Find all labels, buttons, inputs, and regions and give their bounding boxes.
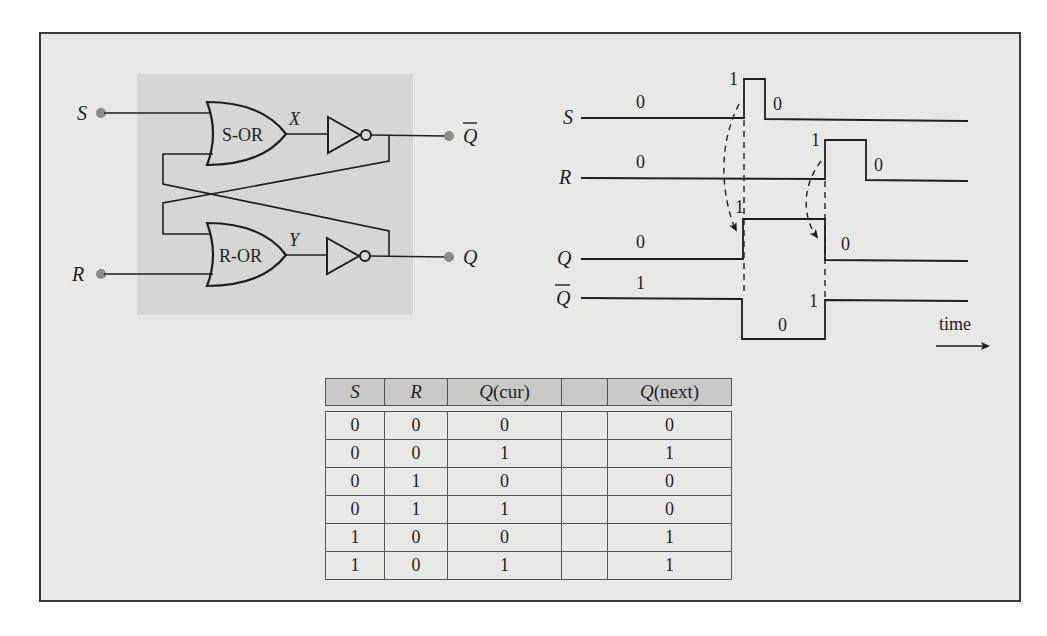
waveform-qbar bbox=[581, 298, 968, 339]
header-q-next-symbol: Q bbox=[640, 381, 654, 403]
table-row: 1 0 1 1 bbox=[326, 552, 731, 580]
header-q-cur-suffix: (cur) bbox=[493, 381, 530, 403]
inverter-bottom-bubble bbox=[360, 251, 370, 261]
cell-q-cur: 0 bbox=[448, 524, 562, 551]
cell-blank bbox=[562, 440, 608, 467]
cell-r: 0 bbox=[385, 412, 448, 439]
output-terminal-qbar[interactable] bbox=[444, 131, 454, 141]
table-row: 0 1 0 0 bbox=[326, 468, 731, 496]
header-q-next-suffix: (next) bbox=[654, 381, 699, 403]
inverter-top-bubble bbox=[361, 130, 371, 140]
output-label-qbar: Q bbox=[463, 125, 478, 147]
cell-r: 1 bbox=[385, 468, 448, 495]
time-axis-label: time bbox=[939, 314, 971, 334]
waveform-r-after: 0 bbox=[874, 155, 883, 175]
waveform-qbar-after: 1 bbox=[809, 291, 818, 311]
timing-label-q: Q bbox=[557, 247, 572, 269]
header-blank bbox=[562, 379, 608, 405]
gate-label-s-or: S-OR bbox=[222, 125, 263, 145]
circuit-panel bbox=[137, 74, 413, 315]
cell-s: 0 bbox=[326, 412, 385, 439]
causality-arrow-reset bbox=[806, 161, 821, 237]
cell-blank bbox=[562, 552, 608, 579]
table-row: 0 1 1 0 bbox=[326, 496, 731, 524]
header-r: R bbox=[385, 379, 448, 405]
circuit-schematic: S S-OR X Q R-OR R Y Q bbox=[71, 74, 478, 315]
waveform-qbar-before: 1 bbox=[636, 273, 645, 293]
timing-diagram: S 0 1 0 R 0 1 0 Q 0 1 0 Q 1 0 1 time bbox=[555, 69, 988, 346]
cell-s: 0 bbox=[326, 440, 385, 467]
cell-blank bbox=[562, 412, 608, 439]
timing-label-r: R bbox=[558, 166, 571, 188]
cell-q-cur: 1 bbox=[448, 440, 562, 467]
node-label-x: X bbox=[288, 109, 301, 129]
cell-q-next: 1 bbox=[608, 524, 731, 551]
truth-table-header: S R Q(cur) Q(next) bbox=[325, 378, 732, 406]
cell-q-cur: 0 bbox=[448, 412, 562, 439]
output-label-q: Q bbox=[463, 246, 478, 268]
cell-blank bbox=[562, 524, 608, 551]
waveform-r-before: 0 bbox=[636, 152, 645, 172]
cell-r: 0 bbox=[385, 552, 448, 579]
waveform-s-before: 0 bbox=[636, 92, 645, 112]
cell-s: 1 bbox=[326, 552, 385, 579]
cell-q-cur: 1 bbox=[448, 496, 562, 523]
output-terminal-q[interactable] bbox=[444, 252, 454, 262]
waveform-qbar-mid: 0 bbox=[778, 315, 787, 335]
wire-q-output bbox=[370, 256, 446, 257]
gate-label-r-or: R-OR bbox=[219, 246, 262, 266]
waveform-r-pulse: 1 bbox=[811, 130, 820, 150]
cell-r: 0 bbox=[385, 440, 448, 467]
cell-q-next: 0 bbox=[608, 496, 731, 523]
timing-label-qbar: Q bbox=[556, 287, 571, 309]
waveform-q-before: 0 bbox=[636, 232, 645, 252]
cell-q-next: 1 bbox=[608, 552, 731, 579]
header-q-next: Q(next) bbox=[608, 379, 731, 405]
table-row: 1 0 0 1 bbox=[326, 524, 731, 552]
timing-label-s: S bbox=[563, 106, 573, 128]
cell-r: 0 bbox=[385, 524, 448, 551]
table-row: 0 0 0 0 bbox=[326, 412, 731, 440]
cell-blank bbox=[562, 496, 608, 523]
header-q-cur-symbol: Q bbox=[479, 381, 493, 403]
truth-table-body: 0 0 0 0 0 0 1 1 0 1 0 0 0 1 1 0 1 bbox=[325, 411, 732, 580]
waveform-s-after: 0 bbox=[773, 94, 782, 114]
cell-q-next: 0 bbox=[608, 468, 731, 495]
cell-q-cur: 0 bbox=[448, 468, 562, 495]
cell-s: 0 bbox=[326, 496, 385, 523]
cell-q-next: 0 bbox=[608, 412, 731, 439]
cell-q-next: 1 bbox=[608, 440, 731, 467]
header-s: S bbox=[326, 379, 385, 405]
cell-blank bbox=[562, 468, 608, 495]
waveform-q-mid: 1 bbox=[735, 197, 744, 217]
input-label-r: R bbox=[71, 263, 84, 285]
table-row: 0 0 1 1 bbox=[326, 440, 731, 468]
header-q-cur: Q(cur) bbox=[448, 379, 562, 405]
waveform-s-pulse: 1 bbox=[729, 69, 738, 89]
input-label-s: S bbox=[77, 102, 87, 124]
truth-table: S R Q(cur) Q(next) 0 0 0 0 0 0 1 1 0 1 0 bbox=[325, 378, 732, 580]
cell-s: 1 bbox=[326, 524, 385, 551]
cell-q-cur: 1 bbox=[448, 552, 562, 579]
cell-s: 0 bbox=[326, 468, 385, 495]
wire-qbar-output bbox=[371, 135, 446, 136]
waveform-q-after: 0 bbox=[841, 234, 850, 254]
cell-r: 1 bbox=[385, 496, 448, 523]
